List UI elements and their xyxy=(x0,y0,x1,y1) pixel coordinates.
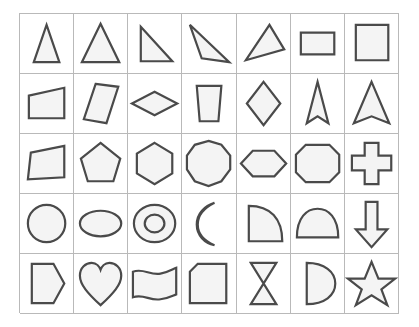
home-plate-icon xyxy=(20,254,73,313)
arrowhead-wide-icon xyxy=(345,74,398,133)
grid-cell-r1c2[interactable] xyxy=(74,14,128,74)
star-icon xyxy=(345,254,398,313)
semicircle-icon xyxy=(291,194,344,253)
grid-cell-r2c1[interactable] xyxy=(20,74,74,134)
grid-cell-r5c3[interactable] xyxy=(128,254,182,314)
grid-cell-r4c1[interactable] xyxy=(20,194,74,254)
obtuse-triangle-icon xyxy=(182,14,235,73)
grid-cell-r1c3[interactable] xyxy=(128,14,182,74)
parallelogram-icon xyxy=(74,74,127,133)
rectangle-icon xyxy=(291,14,344,73)
grid-cell-r2c7[interactable] xyxy=(345,74,399,134)
octagon-wide-icon xyxy=(291,134,344,193)
crescent-icon xyxy=(182,194,235,253)
grid-cell-r4c2[interactable] xyxy=(74,194,128,254)
quarter-circle-icon xyxy=(237,194,290,253)
cut-corner-square-icon xyxy=(182,254,235,313)
grid-cell-r5c6[interactable] xyxy=(291,254,345,314)
cross-icon xyxy=(345,134,398,193)
narrow-triangle-icon xyxy=(20,14,73,73)
grid-cell-r5c2[interactable] xyxy=(74,254,128,314)
grid-cell-r5c4[interactable] xyxy=(182,254,236,314)
grid-cell-r5c7[interactable] xyxy=(345,254,399,314)
trapezoid-cup-icon xyxy=(182,74,235,133)
grid-cell-r4c3[interactable] xyxy=(128,194,182,254)
grid-cell-r4c6[interactable] xyxy=(291,194,345,254)
rhombus-tall-icon xyxy=(237,74,290,133)
grid-cell-r3c5[interactable] xyxy=(237,134,291,194)
shape-chart-page xyxy=(0,0,419,327)
ellipse-icon xyxy=(74,194,127,253)
trapezoid-right-icon xyxy=(20,74,73,133)
grid-cell-r4c7[interactable] xyxy=(345,194,399,254)
heart-icon xyxy=(74,254,127,313)
equilateral-triangle-icon xyxy=(74,14,127,73)
square-icon xyxy=(345,14,398,73)
grid-cell-r3c3[interactable] xyxy=(128,134,182,194)
grid-cell-r3c6[interactable] xyxy=(291,134,345,194)
hexagon-flat-icon xyxy=(237,134,290,193)
hourglass-icon xyxy=(237,254,290,313)
grid-cell-r3c4[interactable] xyxy=(182,134,236,194)
pentagon-icon xyxy=(74,134,127,193)
grid-cell-r2c3[interactable] xyxy=(128,74,182,134)
scalene-triangle-icon xyxy=(237,14,290,73)
grid-cell-r5c5[interactable] xyxy=(237,254,291,314)
grid-cell-r4c5[interactable] xyxy=(237,194,291,254)
circle-icon xyxy=(20,194,73,253)
grid-cell-r1c5[interactable] xyxy=(237,14,291,74)
grid-cell-r2c2[interactable] xyxy=(74,74,128,134)
grid-cell-r2c6[interactable] xyxy=(291,74,345,134)
hexagon-icon xyxy=(128,134,181,193)
grid-cell-r1c1[interactable] xyxy=(20,14,74,74)
shape-grid xyxy=(19,13,399,313)
grid-cell-r2c4[interactable] xyxy=(182,74,236,134)
grid-cell-r1c6[interactable] xyxy=(291,14,345,74)
grid-cell-r2c5[interactable] xyxy=(237,74,291,134)
annulus-icon xyxy=(128,194,181,253)
grid-cell-r3c2[interactable] xyxy=(74,134,128,194)
right-triangle-icon xyxy=(128,14,181,73)
grid-cell-r5c1[interactable] xyxy=(20,254,74,314)
arrowhead-narrow-icon xyxy=(291,74,344,133)
rhombus-wide-icon xyxy=(128,74,181,133)
down-arrow-icon xyxy=(345,194,398,253)
grid-cell-r3c1[interactable] xyxy=(20,134,74,194)
grid-cell-r1c7[interactable] xyxy=(345,14,399,74)
irregular-quadrilateral-icon xyxy=(20,134,73,193)
half-disc-icon xyxy=(291,254,344,313)
grid-cell-r4c4[interactable] xyxy=(182,194,236,254)
wavy-banner-icon xyxy=(128,254,181,313)
nonagon-icon xyxy=(182,134,235,193)
grid-cell-r3c7[interactable] xyxy=(345,134,399,194)
grid-cell-r1c4[interactable] xyxy=(182,14,236,74)
